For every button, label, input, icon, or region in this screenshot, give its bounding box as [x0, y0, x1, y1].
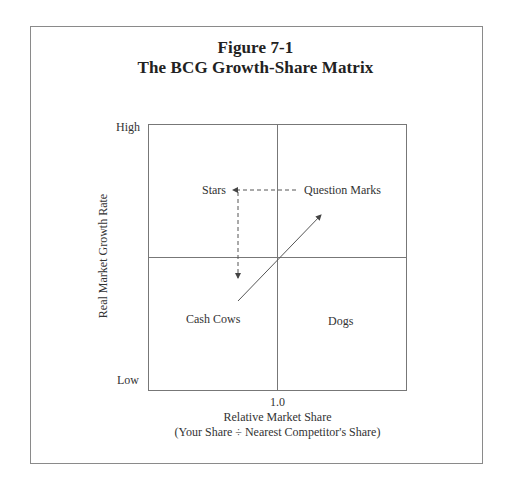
horizontal-divider [148, 257, 407, 258]
figure-title: The BCG Growth-Share Matrix [0, 58, 511, 78]
y-axis-label: Real Market Growth Rate [96, 194, 111, 318]
quadrant-stars: Stars [202, 183, 226, 198]
x-axis-sublabel: (Your Share ÷ Nearest Competitor's Share… [0, 425, 511, 440]
quadrant-question-marks: Question Marks [304, 183, 381, 198]
figure-number: Figure 7-1 [0, 38, 511, 58]
y-axis-low-label: Low [117, 373, 139, 388]
quadrant-cash-cows: Cash Cows [186, 312, 240, 327]
quadrant-dogs: Dogs [328, 314, 353, 329]
x-axis-label: Relative Market Share [0, 410, 511, 425]
y-axis-high-label: High [116, 120, 140, 135]
x-axis-tick-label: 1.0 [0, 395, 511, 410]
